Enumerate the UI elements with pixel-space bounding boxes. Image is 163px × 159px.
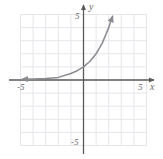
y-axis-tick-5: 5: [75, 12, 80, 21]
x-axis-tick-5: 5: [138, 83, 143, 92]
graph-canvas: [0, 0, 163, 159]
exponential-graph-figure: y x 5 -5 -5 5: [0, 0, 163, 159]
x-axis-label: x: [150, 82, 154, 92]
y-axis-label: y: [89, 2, 93, 12]
y-axis-tick-negative-5: -5: [71, 138, 79, 147]
x-axis-tick-negative-5: -5: [17, 83, 25, 92]
exponential-curve: [23, 17, 113, 80]
